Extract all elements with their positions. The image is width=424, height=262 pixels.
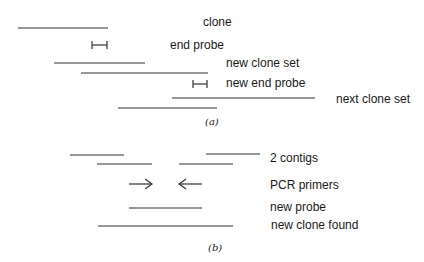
label-2-contigs: 2 contigs [270, 151, 318, 165]
new-end-probe-marker [193, 80, 207, 88]
label-clone: clone [203, 15, 232, 29]
arrow-left-icon [179, 179, 202, 189]
label-new-clone-found: new clone found [271, 218, 358, 232]
label-end-probe: end probe [170, 38, 224, 52]
label-new-end-probe: new end probe [226, 76, 305, 90]
caption-a: (a) [205, 116, 219, 128]
end-probe-marker [92, 41, 107, 49]
caption-b: (b) [208, 242, 222, 254]
label-new-clone-set: new clone set [226, 56, 299, 70]
label-pcr-primers: PCR primers [270, 178, 339, 192]
label-new-probe: new probe [270, 200, 326, 214]
arrow-right-icon [129, 179, 152, 189]
label-next-clone-set: next clone set [336, 92, 410, 106]
